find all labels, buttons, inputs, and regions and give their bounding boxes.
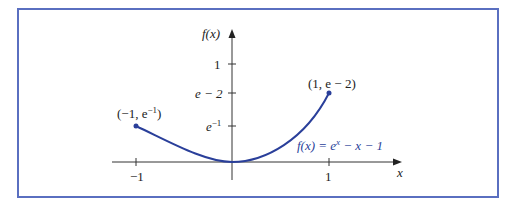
y-tick-label-1: 1	[214, 57, 221, 72]
y-tick-label-e-minus-2: e − 2	[195, 86, 223, 101]
endpoint-right	[327, 91, 332, 96]
y-axis-arrow-icon	[229, 29, 236, 38]
y-tick-label-e-inverse: e−1	[206, 118, 221, 134]
chart: f(x) x −1 1 1 e − 2 e−1 (−1, e−1) (1, e …	[0, 0, 513, 208]
endpoint-left	[134, 124, 139, 129]
x-axis-label: x	[396, 165, 403, 180]
y-axis-label: f(x)	[202, 26, 220, 41]
x-tick-label-1: 1	[325, 169, 332, 184]
annotation-right-point: (1, e − 2)	[308, 76, 356, 91]
annotation-left-point: (−1, e−1)	[117, 105, 161, 121]
function-label: f(x) = ex − x − 1	[297, 137, 383, 153]
x-tick-label-neg1: −1	[130, 169, 144, 184]
